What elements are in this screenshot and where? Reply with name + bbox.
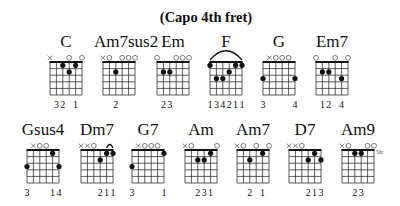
finger-dot-icon: [113, 69, 118, 74]
fretboard-grid: [123, 121, 183, 191]
finger-number: 3: [25, 188, 30, 198]
page-title: (Capo 4th fret): [0, 9, 400, 26]
fretboard-grid: [148, 33, 208, 103]
open-string-icon: [346, 55, 351, 60]
finger-dot-icon: [260, 76, 265, 81]
fretboard-grid: [41, 33, 101, 103]
open-string-icon: [155, 55, 160, 60]
open-string-icon: [372, 143, 377, 148]
fretboard-grid: [307, 33, 367, 103]
muted-string-icon: [136, 144, 140, 148]
finger-dot-icon: [207, 63, 212, 68]
finger-dot-icon: [306, 157, 311, 162]
open-string-icon: [273, 55, 278, 60]
open-string-icon: [142, 143, 147, 148]
finger-number: 1: [260, 188, 265, 198]
finger-number: 1: [312, 188, 317, 198]
open-string-icon: [149, 143, 154, 148]
open-string-icon: [215, 143, 220, 148]
finger-dot-icon: [161, 69, 166, 74]
fretboard-grid: [94, 33, 154, 103]
muted-string-icon: [79, 144, 83, 148]
finger-number: 2: [60, 100, 65, 110]
finger-dot-icon: [195, 157, 200, 162]
finger-dot-icon: [359, 151, 364, 156]
finger-dot-icon: [352, 151, 357, 156]
finger-dot-icon: [247, 157, 252, 162]
finger-dot-icon: [227, 69, 232, 74]
fretboard-grid: [201, 33, 261, 103]
finger-number: 4: [57, 188, 62, 198]
finger-number: 4: [220, 100, 225, 110]
fretboard-grid: [176, 121, 236, 191]
finger-number: 1: [240, 100, 245, 110]
finger-number: 3: [359, 188, 364, 198]
finger-number: 2: [161, 100, 166, 110]
finger-number: 3: [54, 100, 59, 110]
muted-string-icon: [85, 144, 89, 148]
finger-number: 3: [202, 188, 207, 198]
finger-number: 1: [208, 100, 213, 110]
muted-string-icon: [267, 56, 271, 60]
finger-number: 1: [320, 100, 325, 110]
open-string-icon: [67, 55, 72, 60]
open-string-icon: [80, 55, 85, 60]
finger-number: 1: [233, 100, 238, 110]
finger-number: 1: [162, 188, 167, 198]
open-string-icon: [91, 143, 96, 148]
finger-dot-icon: [67, 69, 72, 74]
fretboard-grid: [280, 121, 340, 191]
open-string-icon: [333, 55, 338, 60]
finger-dot-icon: [233, 63, 238, 68]
open-string-icon: [133, 55, 138, 60]
finger-dot-icon: [50, 151, 55, 156]
finger-number: 2: [113, 100, 118, 110]
open-string-icon: [346, 143, 351, 148]
open-string-icon: [126, 55, 131, 60]
finger-dot-icon: [339, 76, 344, 81]
finger-dot-icon: [60, 63, 65, 68]
finger-dot-icon: [239, 63, 244, 68]
finger-number: 3: [319, 188, 324, 198]
finger-number: 2: [227, 100, 232, 110]
finger-dot-icon: [104, 151, 109, 156]
finger-number: 2: [98, 188, 103, 198]
muted-string-icon: [31, 144, 35, 148]
open-string-icon: [180, 55, 185, 60]
finger-dot-icon: [318, 157, 323, 162]
finger-dot-icon: [320, 69, 325, 74]
muted-string-icon: [340, 144, 344, 148]
muted-string-icon: [293, 144, 297, 148]
open-string-icon: [155, 143, 160, 148]
finger-dot-icon: [260, 151, 265, 156]
barre-arc-icon: [210, 51, 242, 60]
finger-number: 1: [73, 100, 78, 110]
fretboard-grid: [228, 121, 288, 191]
finger-dot-icon: [73, 63, 78, 68]
fretboard-grid: 5fr: [333, 121, 393, 191]
finger-dot-icon: [110, 151, 115, 156]
finger-dot-icon: [161, 151, 166, 156]
fret-position-label: 5fr: [376, 149, 383, 155]
muted-string-icon: [287, 144, 291, 148]
finger-number: 1: [111, 188, 116, 198]
open-string-icon: [107, 55, 112, 60]
fretboard-grid: [254, 33, 314, 103]
finger-number: 2: [247, 188, 252, 198]
muted-string-icon: [101, 56, 105, 60]
finger-dot-icon: [214, 76, 219, 81]
finger-number: 1: [50, 188, 55, 198]
barre-arc-icon: [107, 145, 113, 148]
muted-string-icon: [183, 144, 187, 148]
open-string-icon: [314, 55, 319, 60]
finger-number: 4: [339, 100, 344, 110]
open-string-icon: [365, 143, 370, 148]
finger-dot-icon: [98, 157, 103, 162]
finger-dot-icon: [167, 69, 172, 74]
open-string-icon: [44, 143, 49, 148]
finger-dot-icon: [202, 157, 207, 162]
finger-number: 1: [208, 188, 213, 198]
open-string-icon: [120, 55, 125, 60]
finger-dot-icon: [312, 151, 317, 156]
finger-dot-icon: [56, 164, 61, 169]
